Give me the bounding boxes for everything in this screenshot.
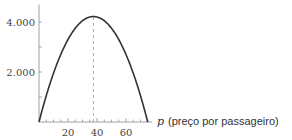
y-tick-label: 4.000 <box>6 17 35 28</box>
x-axis-title: (preço por passageiro) <box>168 115 279 127</box>
x-tick-label: 20 <box>62 127 75 138</box>
x-tick-label: 40 <box>91 127 104 138</box>
revenue-curve <box>39 17 148 122</box>
x-axis-variable: p <box>157 115 164 128</box>
tick-labels: 2040602.0004.000 <box>6 17 132 139</box>
axes <box>39 5 152 123</box>
y-tick-label: 2.000 <box>6 67 35 78</box>
x-tick-label: 60 <box>120 127 133 138</box>
revenue-parabola-chart: 2040602.0004.000 p (preço por passageiro… <box>0 0 292 140</box>
